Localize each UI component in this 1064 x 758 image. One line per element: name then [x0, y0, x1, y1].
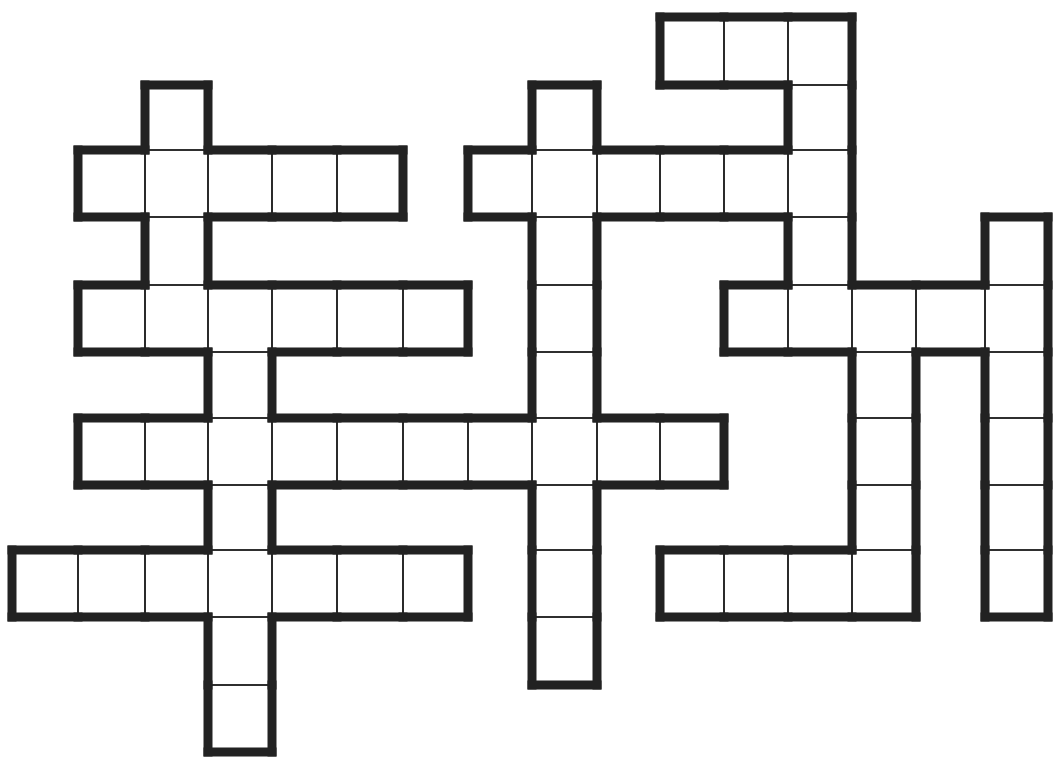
crossword-cell[interactable] — [408, 423, 463, 480]
crossword-cell[interactable] — [793, 555, 847, 612]
crossword-cell[interactable] — [277, 555, 332, 612]
crossword-cell[interactable] — [342, 290, 398, 347]
crossword-cell[interactable] — [277, 155, 332, 212]
crossword-cell[interactable] — [793, 290, 847, 347]
crossword-cell[interactable] — [150, 290, 203, 347]
crossword-cell[interactable] — [537, 423, 592, 480]
crossword-cell[interactable] — [537, 555, 592, 612]
crossword-cell[interactable] — [793, 155, 847, 212]
crossword-cell[interactable] — [213, 555, 267, 612]
crossword-cell[interactable] — [729, 555, 783, 612]
crossword-cell[interactable] — [277, 290, 332, 347]
crossword-cell[interactable] — [857, 490, 911, 545]
crossword-cell[interactable] — [83, 423, 140, 480]
crossword-cell[interactable] — [665, 423, 719, 480]
crossword-cell[interactable] — [213, 622, 267, 680]
crossword-cell[interactable] — [213, 290, 267, 347]
crossword-cell[interactable] — [990, 490, 1043, 545]
crossword-cell[interactable] — [17, 555, 73, 612]
crossword-cell[interactable] — [342, 555, 398, 612]
crossword-cell[interactable] — [729, 22, 783, 80]
crossword-cell[interactable] — [990, 290, 1043, 347]
crossword-cell[interactable] — [729, 290, 783, 347]
crossword-cell[interactable] — [83, 290, 140, 347]
crossword-cell[interactable] — [729, 155, 783, 212]
crossword-cell[interactable] — [277, 423, 332, 480]
crossword-cell[interactable] — [150, 222, 203, 280]
crossword-cell[interactable] — [857, 555, 911, 612]
crossword-cell[interactable] — [537, 90, 592, 145]
crossword-cell[interactable] — [537, 357, 592, 413]
crossword-cell[interactable] — [857, 423, 911, 480]
crossword-cell[interactable] — [213, 490, 267, 545]
crossword-cell[interactable] — [537, 155, 592, 212]
crossword-cell[interactable] — [342, 155, 398, 212]
crossword-cell[interactable] — [150, 90, 203, 145]
crossword-cell[interactable] — [537, 622, 592, 680]
crossword-cell[interactable] — [408, 290, 463, 347]
crossword-grid — [0, 0, 1064, 758]
crossword-cell[interactable] — [150, 423, 203, 480]
crossword-cell[interactable] — [793, 222, 847, 280]
crossword-cell[interactable] — [342, 423, 398, 480]
crossword-cell[interactable] — [665, 155, 719, 212]
crossword-cell[interactable] — [473, 155, 527, 212]
crossword-cell[interactable] — [857, 290, 911, 347]
crossword-cell[interactable] — [473, 423, 527, 480]
crossword-cell[interactable] — [665, 555, 719, 612]
crossword-cell[interactable] — [537, 290, 592, 347]
crossword-cell[interactable] — [537, 490, 592, 545]
crossword-cell[interactable] — [857, 357, 911, 413]
crossword-cell[interactable] — [408, 555, 463, 612]
crossword-cell[interactable] — [793, 90, 847, 145]
crossword-cell[interactable] — [537, 222, 592, 280]
crossword-cell[interactable] — [990, 423, 1043, 480]
crossword-cell[interactable] — [990, 222, 1043, 280]
crossword-cell[interactable] — [213, 423, 267, 480]
crossword-cell[interactable] — [602, 423, 655, 480]
crossword-cell[interactable] — [602, 155, 655, 212]
crossword-cell[interactable] — [150, 555, 203, 612]
crossword-cell[interactable] — [83, 555, 140, 612]
crossword-cell[interactable] — [921, 290, 980, 347]
crossword-cell[interactable] — [213, 357, 267, 413]
crossword-cell[interactable] — [793, 22, 847, 80]
crossword-cell[interactable] — [213, 155, 267, 212]
crossword-cell[interactable] — [665, 22, 719, 80]
crossword-cell[interactable] — [213, 690, 267, 747]
crossword-cell[interactable] — [150, 155, 203, 212]
crossword-cell[interactable] — [83, 155, 140, 212]
crossword-cell[interactable] — [990, 357, 1043, 413]
crossword-cell[interactable] — [990, 555, 1043, 612]
